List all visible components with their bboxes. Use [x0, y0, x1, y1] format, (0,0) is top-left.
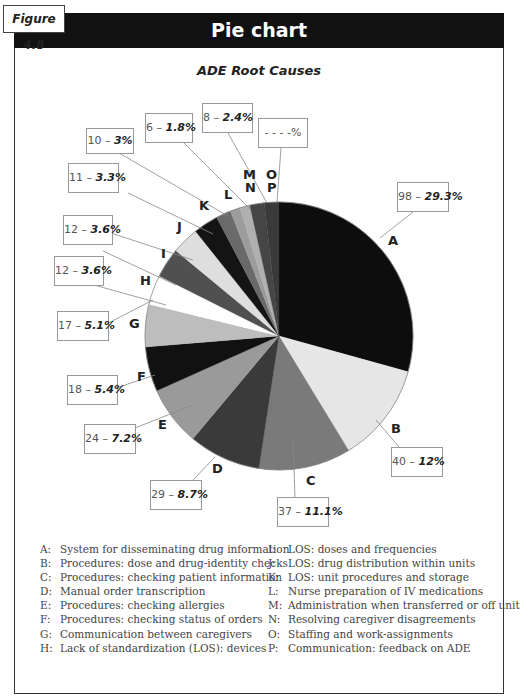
callout-g: 17 – 5.1% — [57, 311, 109, 341]
legend-item: D:Manual order transcription — [40, 584, 289, 598]
legend-item: O:Staffing and work-assignments — [268, 627, 520, 641]
callout-b: 40 – 12% — [391, 447, 443, 477]
legend-item: P:Communication: feedback on ADE — [268, 641, 520, 655]
callout-l: 6 – 1.8% — [145, 113, 193, 143]
callout-op: - - - -% — [258, 118, 308, 148]
legend-item: C:Procedures: checking patient informati… — [40, 570, 289, 584]
legend-item: G:Communication between caregivers — [40, 627, 289, 641]
callout-h: 12 – 3.6% — [54, 256, 104, 286]
legend-item: B:Procedures: dose and drug-identity che… — [40, 556, 289, 570]
legend-item: E:Procedures: checking allergies — [40, 598, 289, 612]
callout-j: 11 – 3.3% — [68, 163, 119, 193]
legend-item: A:System for disseminating drug informat… — [40, 542, 289, 556]
legend-item: L:Nurse preparation of IV medications — [268, 584, 520, 598]
slice-letter-k: K — [199, 198, 209, 213]
callout-k: 10 – 3% — [86, 128, 134, 154]
callout-f: 18 – 5.4% — [67, 375, 118, 405]
callout-i: 12 – 3.6% — [63, 215, 113, 245]
callout-d: 29 – 8.7% — [150, 480, 202, 510]
legend-item: M:Administration when transferred or off… — [268, 598, 520, 612]
slice-letter-h: H — [140, 273, 151, 288]
slice-letter-n: N — [245, 180, 256, 195]
slice-letter-f: F — [137, 369, 146, 384]
slice-letter-c: C — [306, 473, 316, 488]
legend-left: A:System for disseminating drug informat… — [40, 542, 289, 655]
legend-item: J:LOS: drug distribution within units — [268, 556, 520, 570]
callout-a: 98 – 29.3% — [397, 182, 449, 212]
slice-letter-d: D — [212, 461, 223, 476]
legend-item: K:LOS: unit procedures and storage — [268, 570, 520, 584]
legend-item: N:Resolving caregiver disagreements — [268, 612, 520, 626]
slice-letter-e: E — [158, 417, 167, 432]
slice-letter-b: B — [391, 421, 401, 436]
legend-item: H:Lack of standardization (LOS): devices — [40, 641, 289, 655]
legend-item: F:Procedures: checking status of orders — [40, 612, 289, 626]
slice-letter-l: L — [224, 187, 232, 202]
pie-slices — [145, 202, 413, 470]
callout-e: 24 – 7.2% — [84, 424, 136, 454]
slice-letter-a: A — [388, 233, 398, 248]
slice-letter-p: P — [267, 180, 277, 195]
legend-item: I:LOS: doses and frequencies — [268, 542, 520, 556]
callout-c: 37 – 11.1% — [277, 497, 329, 527]
slice-letter-g: G — [129, 316, 140, 331]
slice-letter-j: J — [177, 219, 182, 234]
slice-letter-i: I — [161, 246, 166, 261]
legend-right: I:LOS: doses and frequencies J:LOS: drug… — [268, 542, 520, 655]
callout-mn: 8 – 2.4% — [202, 103, 253, 133]
